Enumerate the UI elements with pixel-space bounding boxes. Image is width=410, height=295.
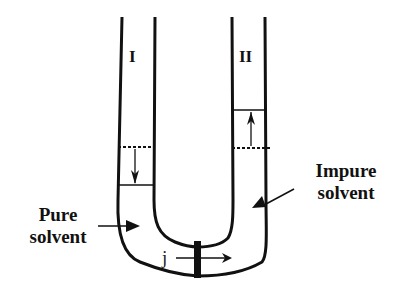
inner-tube-wall bbox=[154, 17, 233, 247]
tube-label-left: I bbox=[129, 48, 136, 65]
impure-solvent-pointer-icon bbox=[266, 189, 294, 204]
impure-solvent-line1: Impure bbox=[301, 160, 391, 182]
pure-solvent-line1: Pure bbox=[18, 204, 98, 226]
flux-label: j bbox=[162, 248, 167, 267]
u-tube-drawing bbox=[0, 0, 410, 295]
u-tube-diagram: I II Pure solvent Impure solvent j bbox=[0, 0, 410, 295]
tube-label-right: II bbox=[239, 48, 252, 65]
impure-solvent-label: Impure solvent bbox=[301, 160, 391, 204]
impure-solvent-line2: solvent bbox=[301, 182, 391, 204]
semipermeable-membrane bbox=[194, 241, 201, 278]
pure-solvent-line2: solvent bbox=[18, 226, 98, 248]
pure-solvent-label: Pure solvent bbox=[18, 204, 98, 248]
